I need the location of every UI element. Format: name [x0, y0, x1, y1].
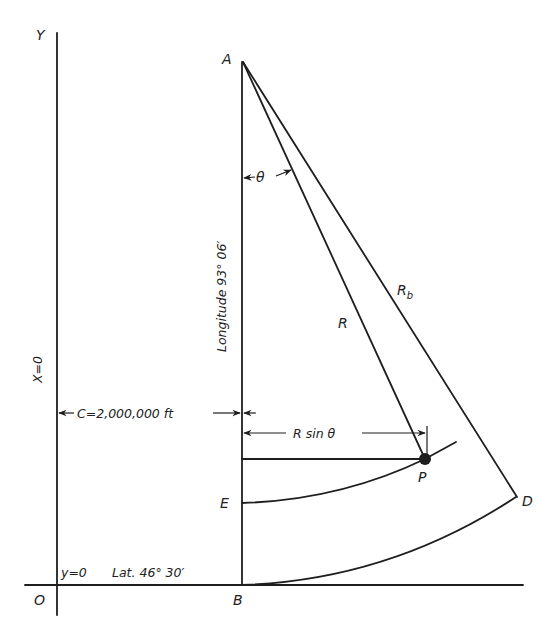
point-p-label: P: [418, 469, 427, 485]
radius-r-line: [243, 62, 425, 459]
theta-arrow-left: [244, 177, 255, 178]
theta-arrow-right: [276, 170, 291, 176]
y-axis-label: Y: [36, 27, 46, 43]
radius-rb-line: [243, 62, 517, 497]
point-a-label: A: [221, 51, 232, 67]
radius-rb-subscript: b: [407, 290, 413, 301]
latitude-label: Lat. 46° 30′: [112, 565, 185, 580]
radius-r-label: R: [338, 315, 348, 331]
parallel-arc-bd: [242, 497, 516, 585]
y-zero-label: y=0: [60, 565, 87, 580]
radius-rb-label: Rb: [397, 282, 413, 301]
point-b-label: B: [233, 592, 243, 608]
rsin-dimension-label: R sin θ: [293, 426, 336, 441]
radius-rb-main: R: [397, 282, 407, 298]
origin-label: O: [34, 592, 45, 608]
c-dimension-label: C=2,000,000 ft: [77, 406, 174, 421]
point-e-label: E: [220, 495, 229, 511]
point-d-label: D: [522, 493, 533, 509]
longitude-label: Longitude 93° 06′: [214, 241, 229, 352]
point-p-dot: [419, 453, 431, 465]
theta-label: θ: [256, 169, 265, 185]
projection-diagram: Y O y=0 Lat. 46° 30′ X=0 A B Longitude 9…: [0, 0, 554, 635]
x-zero-label: X=0: [30, 356, 45, 384]
